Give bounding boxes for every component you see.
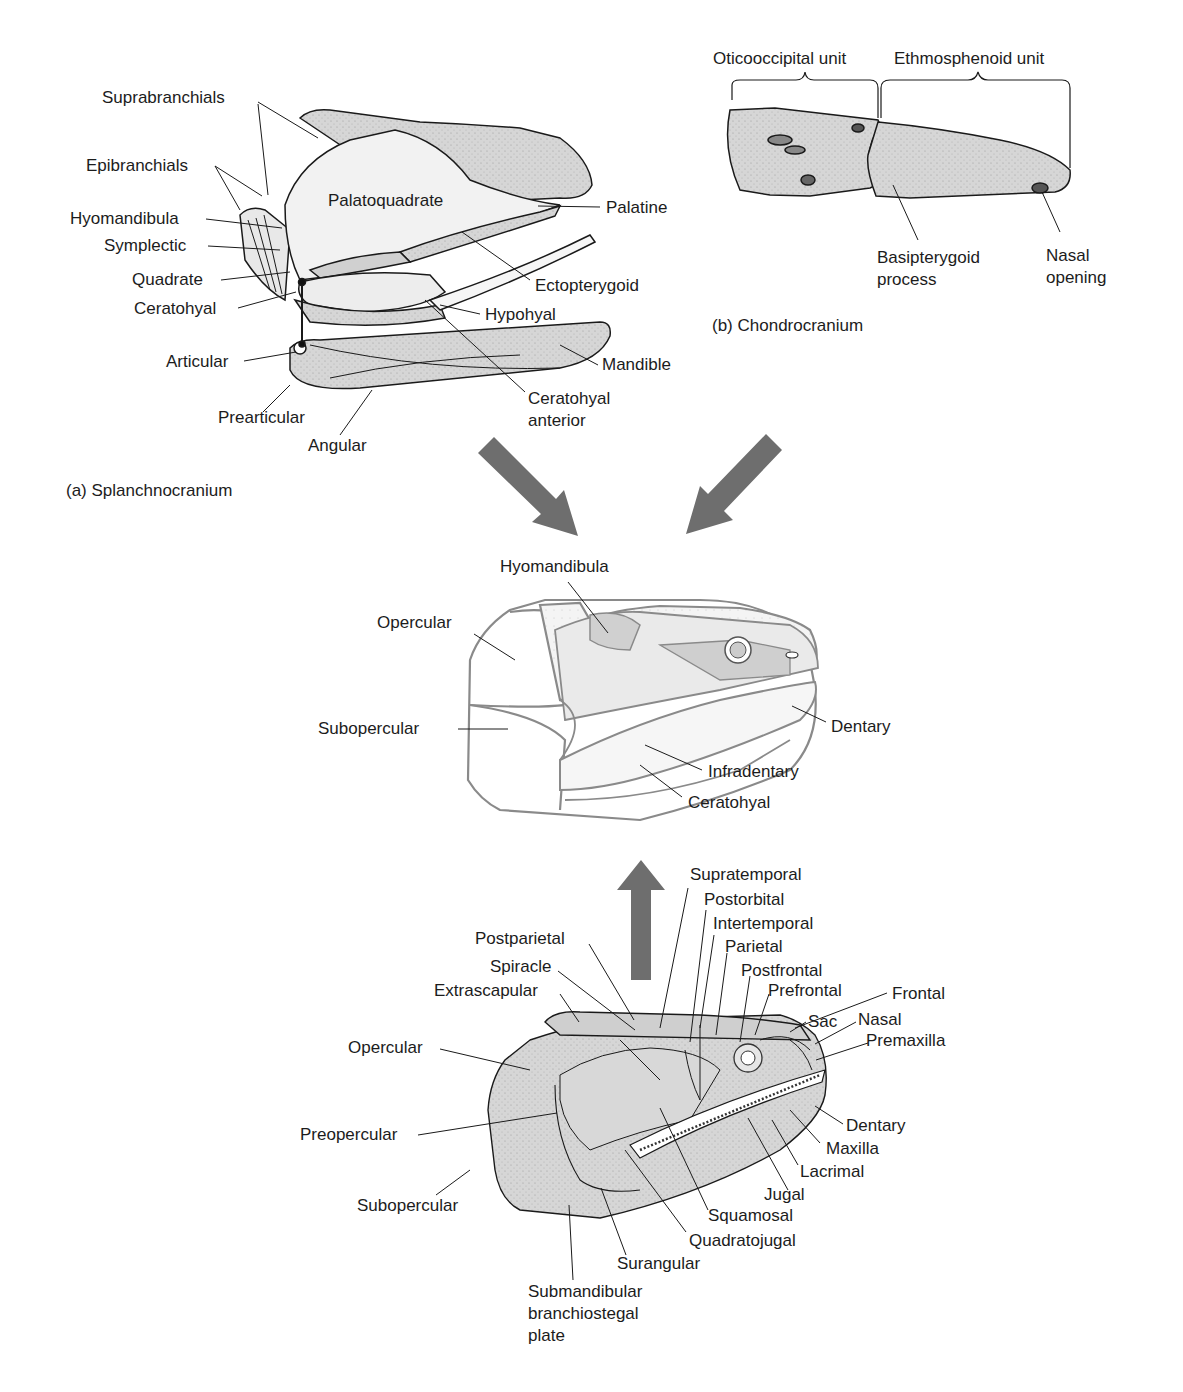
label-composite-dentary: Dentary (831, 717, 891, 737)
label-composite-infradentary: Infradentary (708, 762, 799, 782)
label-dentary: Dentary (846, 1116, 906, 1136)
label-jugal: Jugal (764, 1185, 805, 1205)
label-postorbital: Postorbital (704, 890, 784, 910)
label-suprabranchials: Suprabranchials (102, 88, 225, 108)
label-extrascapular: Extrascapular (434, 981, 538, 1001)
splanchnocranium-drawing (240, 110, 610, 389)
composite-head-drawing (468, 600, 818, 820)
label-ethmosphenoid-unit: Ethmosphenoid unit (894, 49, 1044, 69)
label-oticooccipital-unit: Oticooccipital unit (713, 49, 846, 69)
label-composite-hyomandibula: Hyomandibula (500, 557, 609, 577)
label-hyomandibula: Hyomandibula (70, 209, 179, 229)
label-angular: Angular (308, 436, 367, 456)
label-lacrimal: Lacrimal (800, 1162, 864, 1182)
label-quadrate: Quadrate (132, 270, 203, 290)
label-composite-subopercular: Subopercular (318, 719, 419, 739)
label-premaxilla: Premaxilla (866, 1031, 945, 1051)
label-quadratojugal: Quadratojugal (689, 1231, 796, 1251)
label-articular: Articular (166, 352, 228, 372)
label-parietal: Parietal (725, 937, 783, 957)
arrow-down-left-icon (686, 434, 782, 534)
label-ectopterygoid: Ectopterygoid (535, 276, 639, 296)
label-frontal: Frontal (892, 984, 945, 1004)
label-nasal-opening: Nasal opening (1046, 245, 1107, 289)
label-palatoquadrate: Palatoquadrate (328, 191, 443, 211)
label-composite-ceratohyal: Ceratohyal (688, 793, 770, 813)
label-hypohyal: Hypohyal (485, 305, 556, 325)
label-ceratohyal-anterior: Ceratohyal anterior (528, 388, 610, 432)
label-intertemporal: Intertemporal (713, 914, 813, 934)
label-mandible: Mandible (602, 355, 671, 375)
label-squamosal: Squamosal (708, 1206, 793, 1226)
label-symplectic: Symplectic (104, 236, 186, 256)
label-nasal: Nasal (858, 1010, 901, 1030)
label-postparietal: Postparietal (475, 929, 565, 949)
arrow-up-icon (617, 860, 665, 980)
label-submandibular-branchiostegal-plate: Submandibular branchiostegal plate (528, 1281, 642, 1347)
label-preopercular: Preopercular (300, 1125, 397, 1145)
chondrocranium-drawing (728, 108, 1071, 198)
label-supratemporal: Supratemporal (690, 865, 802, 885)
label-surangular: Surangular (617, 1254, 700, 1274)
label-subopercular: Subopercular (357, 1196, 458, 1216)
label-opercular: Opercular (348, 1038, 423, 1058)
label-sac: Sac (808, 1012, 837, 1032)
arrow-down-right-icon (478, 437, 578, 536)
label-postfrontal: Postfrontal (741, 961, 822, 981)
figure-canvas: Suprabranchials Epibranchials Hyomandibu… (0, 0, 1183, 1392)
label-basipterygoid-process: Basipterygoid process (877, 247, 980, 291)
label-prefrontal: Prefrontal (768, 981, 842, 1001)
label-composite-opercular: Opercular (377, 613, 452, 633)
caption-chondrocranium: (b) Chondrocranium (712, 316, 863, 336)
label-prearticular: Prearticular (218, 408, 305, 428)
caption-splanchnocranium: (a) Splanchnocranium (66, 481, 232, 501)
label-epibranchials: Epibranchials (86, 156, 188, 176)
label-ceratohyal: Ceratohyal (134, 299, 216, 319)
label-spiracle: Spiracle (490, 957, 551, 977)
label-maxilla: Maxilla (826, 1139, 879, 1159)
label-palatine: Palatine (606, 198, 667, 218)
